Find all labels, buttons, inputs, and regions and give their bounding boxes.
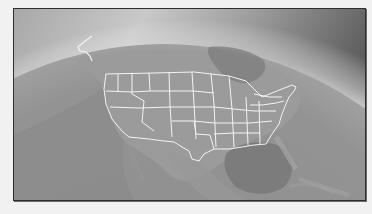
globe-image: [14, 9, 365, 200]
globe-photo-frame: United States on globe: [13, 8, 366, 201]
